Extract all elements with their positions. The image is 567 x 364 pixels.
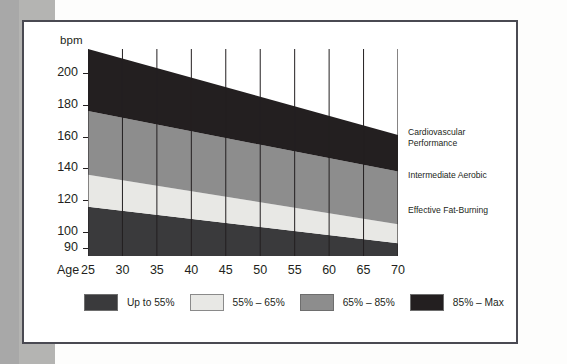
chart-legend: Up to 55%55% – 65%65% – 85%85% – Max [84, 294, 519, 311]
legend-item-4: 85% – Max [410, 294, 504, 311]
y-axis-tick-label: 140 [38, 160, 78, 174]
legend-label: Up to 55% [127, 297, 175, 308]
zone-annotation-3: Effective Fat-Burning [408, 205, 488, 216]
legend-label: 85% – Max [453, 297, 504, 308]
x-axis-tick-label: 70 [383, 263, 413, 277]
y-axis-tick-label: 120 [38, 192, 78, 206]
y-axis-tick-label: 160 [38, 129, 78, 143]
x-axis-tick-label: 50 [245, 263, 275, 277]
legend-swatch-icon [410, 294, 444, 311]
x-axis-tick-label: 40 [176, 263, 206, 277]
zone-annotation-2: Intermediate Aerobic [408, 170, 487, 181]
y-axis-title: bpm [60, 34, 83, 46]
x-axis-tick-label: 55 [280, 263, 310, 277]
y-axis-tick-label: 180 [38, 97, 78, 111]
legend-item-3: 65% – 85% [300, 294, 395, 311]
x-axis-tick-label: 30 [107, 263, 137, 277]
y-axis-tick-label: 100 [38, 224, 78, 238]
legend-item-1: Up to 55% [84, 294, 175, 311]
figure-frame: bpm 20018016014012010090 253035404550556… [22, 20, 518, 344]
legend-label: 55% – 65% [233, 297, 285, 308]
x-axis-title: Age [57, 263, 79, 277]
legend-item-2: 55% – 65% [190, 294, 285, 311]
stacked-area-chart [88, 49, 398, 256]
y-axis-tick-label: 200 [38, 65, 78, 79]
x-axis-tick-label: 35 [142, 263, 172, 277]
legend-swatch-icon [300, 294, 334, 311]
legend-label: 65% – 85% [343, 297, 395, 308]
plot-wrapper: bpm 20018016014012010090 253035404550556… [24, 22, 516, 342]
y-axis-tick-label: 90 [38, 240, 78, 254]
chart-plot-area [88, 49, 398, 256]
legend-swatch-icon [84, 294, 118, 311]
legend-swatch-icon [190, 294, 224, 311]
page-gutter-shadow [0, 0, 19, 364]
scanned-page-background: bpm 20018016014012010090 253035404550556… [0, 0, 567, 364]
x-axis-tick-label: 65 [349, 263, 379, 277]
x-axis-tick-label: 45 [211, 263, 241, 277]
x-axis-tick-label: 60 [314, 263, 344, 277]
zone-annotation-1: Cardiovascular Performance [408, 127, 465, 149]
